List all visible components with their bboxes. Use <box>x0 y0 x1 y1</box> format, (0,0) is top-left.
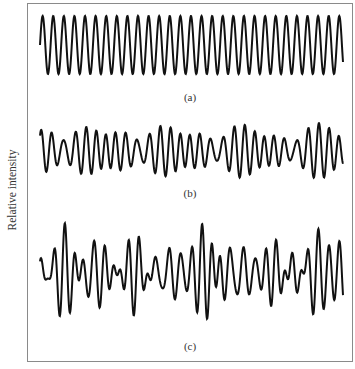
waveform-b <box>40 123 343 177</box>
waveform-c <box>40 223 343 319</box>
panel-label-c: (c) <box>184 341 196 352</box>
waveform-plot <box>0 0 355 369</box>
y-axis-label: Relative intensity <box>6 150 18 231</box>
panel-label-b: (b) <box>184 188 197 199</box>
waveform-a <box>40 16 343 74</box>
panel-label-a: (a) <box>184 92 196 103</box>
